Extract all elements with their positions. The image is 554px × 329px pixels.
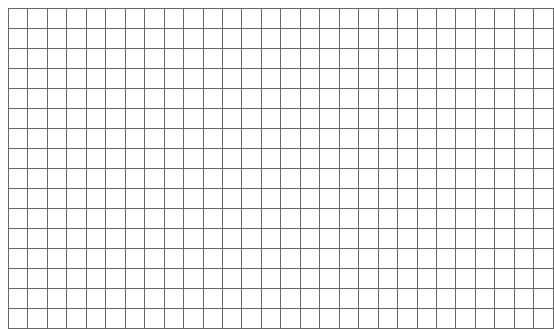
grid-cell[interactable] <box>378 9 397 29</box>
grid-cell[interactable] <box>281 269 300 289</box>
grid-cell[interactable] <box>320 309 339 329</box>
grid-cell[interactable] <box>339 309 358 329</box>
grid-cell[interactable] <box>398 89 417 109</box>
grid-cell[interactable] <box>339 89 358 109</box>
grid-cell[interactable] <box>417 149 436 169</box>
grid-cell[interactable] <box>164 249 183 269</box>
grid-cell[interactable] <box>281 229 300 249</box>
grid-cell[interactable] <box>28 29 47 49</box>
grid-cell[interactable] <box>339 249 358 269</box>
grid-cell[interactable] <box>47 309 66 329</box>
grid-cell[interactable] <box>300 129 319 149</box>
grid-cell[interactable] <box>184 189 203 209</box>
grid-cell[interactable] <box>184 89 203 109</box>
grid-cell[interactable] <box>106 69 125 89</box>
grid-cell[interactable] <box>164 209 183 229</box>
grid-cell[interactable] <box>281 9 300 29</box>
grid-cell[interactable] <box>475 209 494 229</box>
grid-cell[interactable] <box>47 189 66 209</box>
grid-cell[interactable] <box>398 269 417 289</box>
grid-cell[interactable] <box>47 69 66 89</box>
grid-cell[interactable] <box>300 229 319 249</box>
grid-cell[interactable] <box>242 69 261 89</box>
grid-cell[interactable] <box>47 289 66 309</box>
grid-cell[interactable] <box>475 269 494 289</box>
grid-cell[interactable] <box>9 229 28 249</box>
grid-cell[interactable] <box>261 229 280 249</box>
grid-cell[interactable] <box>86 289 105 309</box>
grid-cell[interactable] <box>534 109 554 129</box>
grid-cell[interactable] <box>359 129 378 149</box>
grid-cell[interactable] <box>222 49 241 69</box>
blank-grid-table[interactable] <box>8 8 554 329</box>
grid-cell[interactable] <box>417 289 436 309</box>
grid-cell[interactable] <box>436 49 455 69</box>
grid-cell[interactable] <box>456 129 475 149</box>
grid-cell[interactable] <box>300 69 319 89</box>
grid-cell[interactable] <box>320 189 339 209</box>
grid-cell[interactable] <box>203 189 222 209</box>
grid-cell[interactable] <box>436 209 455 229</box>
grid-cell[interactable] <box>86 169 105 189</box>
grid-cell[interactable] <box>47 269 66 289</box>
grid-cell[interactable] <box>339 69 358 89</box>
grid-cell[interactable] <box>9 249 28 269</box>
grid-cell[interactable] <box>47 169 66 189</box>
grid-cell[interactable] <box>495 109 514 129</box>
grid-cell[interactable] <box>184 49 203 69</box>
grid-cell[interactable] <box>125 229 144 249</box>
grid-cell[interactable] <box>300 309 319 329</box>
grid-cell[interactable] <box>184 269 203 289</box>
grid-cell[interactable] <box>28 49 47 69</box>
grid-cell[interactable] <box>184 249 203 269</box>
grid-cell[interactable] <box>378 189 397 209</box>
grid-cell[interactable] <box>47 49 66 69</box>
grid-cell[interactable] <box>261 149 280 169</box>
grid-cell[interactable] <box>261 109 280 129</box>
grid-cell[interactable] <box>106 89 125 109</box>
grid-cell[interactable] <box>242 129 261 149</box>
grid-cell[interactable] <box>534 49 554 69</box>
grid-cell[interactable] <box>495 49 514 69</box>
grid-cell[interactable] <box>9 129 28 149</box>
grid-cell[interactable] <box>359 89 378 109</box>
grid-cell[interactable] <box>378 209 397 229</box>
grid-cell[interactable] <box>125 149 144 169</box>
grid-cell[interactable] <box>28 69 47 89</box>
grid-cell[interactable] <box>28 169 47 189</box>
grid-cell[interactable] <box>300 29 319 49</box>
grid-cell[interactable] <box>436 309 455 329</box>
grid-cell[interactable] <box>261 69 280 89</box>
grid-cell[interactable] <box>86 249 105 269</box>
grid-cell[interactable] <box>67 289 86 309</box>
grid-cell[interactable] <box>28 269 47 289</box>
grid-cell[interactable] <box>125 169 144 189</box>
grid-cell[interactable] <box>9 89 28 109</box>
grid-cell[interactable] <box>106 249 125 269</box>
grid-cell[interactable] <box>125 289 144 309</box>
grid-cell[interactable] <box>514 149 533 169</box>
grid-cell[interactable] <box>164 269 183 289</box>
grid-cell[interactable] <box>164 29 183 49</box>
grid-cell[interactable] <box>203 209 222 229</box>
grid-cell[interactable] <box>378 149 397 169</box>
grid-cell[interactable] <box>534 29 554 49</box>
grid-cell[interactable] <box>339 29 358 49</box>
grid-cell[interactable] <box>164 289 183 309</box>
grid-cell[interactable] <box>398 249 417 269</box>
grid-cell[interactable] <box>475 29 494 49</box>
grid-cell[interactable] <box>242 109 261 129</box>
grid-cell[interactable] <box>261 49 280 69</box>
grid-cell[interactable] <box>242 89 261 109</box>
grid-cell[interactable] <box>534 229 554 249</box>
grid-cell[interactable] <box>203 249 222 269</box>
grid-cell[interactable] <box>86 29 105 49</box>
grid-cell[interactable] <box>495 269 514 289</box>
grid-cell[interactable] <box>106 49 125 69</box>
grid-cell[interactable] <box>436 269 455 289</box>
grid-cell[interactable] <box>9 289 28 309</box>
grid-cell[interactable] <box>495 9 514 29</box>
grid-cell[interactable] <box>242 289 261 309</box>
grid-cell[interactable] <box>475 49 494 69</box>
grid-cell[interactable] <box>9 49 28 69</box>
